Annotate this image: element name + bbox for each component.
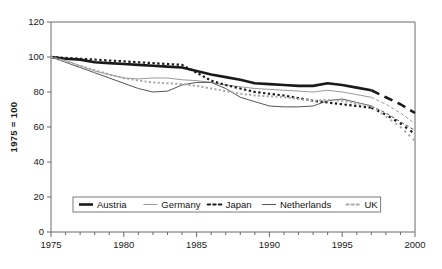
y-tick-label: 60 [33, 121, 44, 132]
legend-label-japan: Japan [226, 199, 252, 210]
legend-label-germany: Germany [161, 199, 200, 210]
y-tick-label: 80 [33, 86, 44, 97]
x-axis-ticks: 197519801985199019952000 [40, 232, 425, 250]
series-projection-japan [371, 108, 415, 134]
y-tick-label: 40 [33, 156, 44, 167]
y-axis-label: 1975 = 100 [8, 102, 19, 153]
y-tick-label: 0 [39, 226, 44, 237]
y-tick-label: 100 [28, 51, 44, 62]
y-tick-label: 120 [28, 16, 44, 27]
series-group [51, 57, 415, 141]
chart-canvas: 020406080100120 197519801985199019952000… [0, 0, 442, 269]
series-line-austria [51, 57, 371, 90]
x-tick-label: 1995 [332, 239, 353, 250]
x-tick-label: 2000 [404, 239, 425, 250]
legend-label-netherlands: Netherlands [280, 199, 331, 210]
chart-legend: AustriaGermanyJapanNetherlandsUK [73, 197, 381, 212]
x-tick-label: 1980 [113, 239, 134, 250]
y-tick-label: 20 [33, 191, 44, 202]
legend-label-uk: UK [365, 199, 379, 210]
x-tick-label: 1990 [259, 239, 280, 250]
series-line-netherlands [51, 57, 371, 107]
x-tick-label: 1985 [186, 239, 207, 250]
legend-label-austria: Austria [97, 199, 127, 210]
y-axis-ticks: 020406080100120 [28, 16, 51, 237]
line-chart: 020406080100120 197519801985199019952000… [0, 0, 442, 269]
x-tick-label: 1975 [40, 239, 61, 250]
